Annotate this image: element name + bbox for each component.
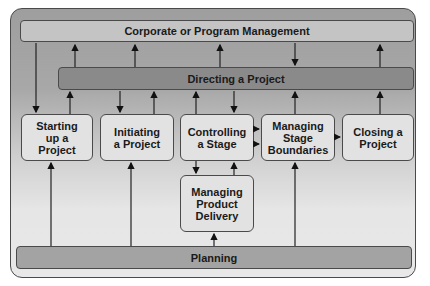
connector-arrows — [0, 0, 430, 286]
